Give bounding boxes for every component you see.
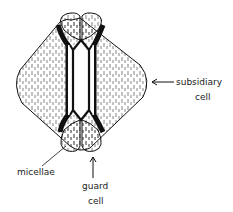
label-subsidiary-cell: cell <box>195 92 211 102</box>
micellae-pointer-line <box>42 146 66 166</box>
label-guard-cell: cell <box>88 196 104 206</box>
label-subsidiary: subsidiary <box>176 77 222 87</box>
stomata-diagram <box>0 0 233 212</box>
subsidiary-arrow <box>152 79 174 85</box>
guard-cell-arrow <box>90 157 96 178</box>
label-guard: guard <box>82 181 108 191</box>
stomatal-pore <box>73 40 89 120</box>
label-micellae: micellae <box>17 167 55 177</box>
